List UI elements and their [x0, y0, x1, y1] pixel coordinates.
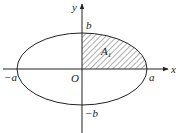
tick-label-pos-b: b [86, 19, 92, 31]
x-axis-label: x [170, 63, 176, 75]
tick-label-neg-b: −b [85, 107, 98, 119]
y-axis-label: y [71, 1, 77, 13]
origin-label: O [71, 72, 79, 84]
tick-label-pos-a: a [149, 71, 155, 83]
ellipse-diagram: x y O a −a b −b A1 [0, 0, 180, 133]
region-label-subscript: 1 [108, 51, 112, 59]
tick-label-neg-a: −a [4, 71, 17, 83]
hatched-region [82, 33, 147, 69]
